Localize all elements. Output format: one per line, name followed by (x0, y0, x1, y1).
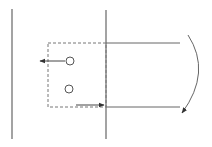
dashed-region-box (48, 43, 106, 107)
upper-circle-icon (66, 57, 74, 65)
lower-circle-icon (65, 85, 73, 93)
rotation-arrow-icon (182, 35, 199, 113)
diagram-canvas (0, 0, 212, 147)
